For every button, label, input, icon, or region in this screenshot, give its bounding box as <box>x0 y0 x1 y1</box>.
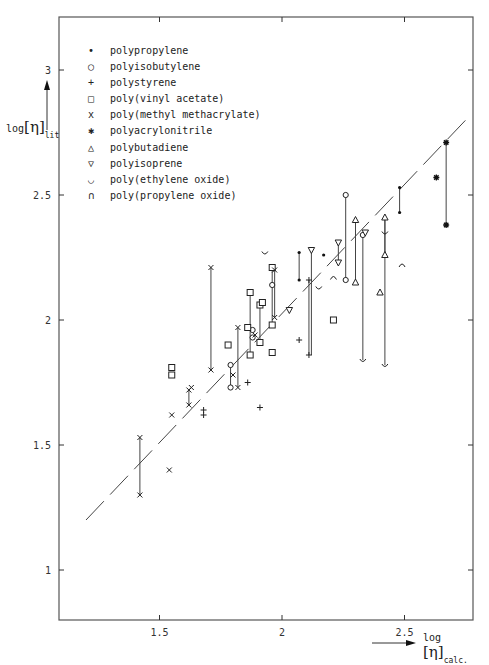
legend-item: □poly(vinyl acetate) <box>88 91 261 107</box>
square-marker <box>247 290 253 296</box>
circle-marker <box>270 282 275 287</box>
x-axis-label: log [η]calc. <box>423 632 489 661</box>
x-label-subscript: calc. <box>444 656 468 665</box>
x-label-eta: [η] <box>423 643 444 661</box>
dot-marker-icon: • <box>88 43 110 59</box>
circle-marker <box>343 277 348 282</box>
triangle-down-marker <box>335 260 341 266</box>
cup-marker <box>316 287 322 290</box>
x-tick-label: 2.5 <box>395 627 413 638</box>
legend-item: +polystyrene <box>88 75 261 91</box>
legend-item: xpoly(methyl methacrylate) <box>88 107 261 123</box>
y-tick-label: 1.5 <box>33 440 51 451</box>
triangle-up-marker <box>377 289 383 295</box>
square-marker <box>259 300 265 306</box>
star-marker <box>433 175 439 181</box>
x-tick-label: 2 <box>279 627 285 638</box>
square-marker <box>169 372 175 378</box>
legend-item: •polypropylene <box>88 43 261 59</box>
square-marker <box>225 342 231 348</box>
legend-item: △polybutadiene <box>88 140 261 156</box>
x-axis-arrow-icon <box>406 640 416 646</box>
triangle-down-marker-icon: ▽ <box>88 156 110 172</box>
legend-item: ◡poly(ethylene oxide) <box>88 172 261 188</box>
y-label-eta: [η] <box>24 118 45 136</box>
triangle-up-marker <box>352 279 358 285</box>
square-marker <box>245 325 251 331</box>
triangle-up-marker-icon: △ <box>88 140 110 156</box>
cross-marker <box>169 413 174 418</box>
triangle-up-marker <box>382 252 388 258</box>
legend-label: poly(propylene oxide) <box>110 188 236 204</box>
legend-label: polypropylene <box>110 43 188 59</box>
star-marker <box>443 222 449 228</box>
y-tick-label: 1 <box>45 565 51 576</box>
circle-marker <box>228 385 233 390</box>
x-label-log: log <box>423 632 441 643</box>
y-tick-label: 2 <box>45 315 51 326</box>
legend-label: polyacrylonitrile <box>110 123 212 139</box>
circle-marker-icon: ○ <box>88 59 110 75</box>
legend-item: ∩poly(propylene oxide) <box>88 188 261 204</box>
plus-marker <box>245 380 251 386</box>
triangle-down-marker <box>335 240 341 246</box>
triangle-down-marker <box>308 248 314 254</box>
x-tick-label: 1.5 <box>150 627 168 638</box>
triangle-up-marker <box>352 217 358 223</box>
cup-marker-icon: ◡ <box>88 172 110 188</box>
cross-marker <box>167 468 172 473</box>
square-marker-icon: □ <box>88 91 110 107</box>
legend-label: poly(ethylene oxide) <box>110 172 230 188</box>
legend-label: polyisoprene <box>110 156 182 172</box>
circle-marker <box>228 362 233 367</box>
cap-marker-icon: ∩ <box>88 188 110 204</box>
legend-label: polystyrene <box>110 75 176 91</box>
dot-marker <box>298 278 301 281</box>
legend-item: ○polyisobutylene <box>88 59 261 75</box>
dot-marker <box>398 186 401 189</box>
square-marker <box>169 365 175 371</box>
legend: •polypropylene ○polyisobutylene +polysty… <box>88 43 261 204</box>
star-marker <box>443 140 449 146</box>
y-axis-label: log[η]lit <box>6 118 59 136</box>
legend-label: polybutadiene <box>110 140 188 156</box>
plus-marker <box>296 337 302 343</box>
dot-marker <box>398 211 401 214</box>
square-marker <box>269 350 275 356</box>
cap-marker <box>399 264 405 267</box>
y-label-subscript: lit <box>45 131 59 140</box>
plus-marker <box>201 412 207 418</box>
square-marker <box>330 317 336 323</box>
cross-marker-icon: x <box>88 107 110 123</box>
legend-label: polyisobutylene <box>110 59 200 75</box>
y-tick-label: 2.5 <box>33 190 51 201</box>
dot-marker <box>322 253 325 256</box>
legend-label: poly(methyl methacrylate) <box>110 107 261 123</box>
plus-marker-icon: + <box>88 75 110 91</box>
y-axis-arrow-icon <box>44 80 50 90</box>
cross-marker <box>231 373 236 378</box>
y-label-log: log <box>6 123 24 134</box>
circle-marker <box>343 192 348 197</box>
legend-item: ▽polyisoprene <box>88 156 261 172</box>
triangle-down-marker <box>286 308 292 314</box>
star-marker-icon: ✱ <box>88 123 110 139</box>
y-tick-label: 3 <box>45 65 51 76</box>
triangle-up-marker <box>382 214 388 220</box>
cup-marker <box>262 252 268 255</box>
cap-marker <box>330 277 336 280</box>
dot-marker <box>298 251 301 254</box>
square-marker <box>247 352 253 358</box>
square-marker <box>257 340 263 346</box>
cross-marker <box>189 385 194 390</box>
legend-item: ✱polyacrylonitrile <box>88 123 261 139</box>
square-marker <box>269 322 275 328</box>
plus-marker <box>257 405 263 411</box>
legend-label: poly(vinyl acetate) <box>110 91 224 107</box>
